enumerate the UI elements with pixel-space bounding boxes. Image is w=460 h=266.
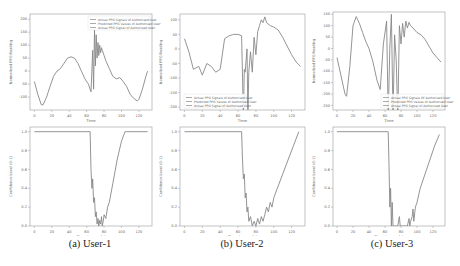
x-tick-label: 100 xyxy=(414,230,422,234)
x-axis-label: Time (seconds) xyxy=(76,234,106,236)
y-tick-label: -50 xyxy=(324,58,331,62)
y-tick-label: 0.6 xyxy=(171,168,177,172)
legend-label: Actual PPG Signal of Authorised User xyxy=(98,26,156,30)
x-tick-label: 120 xyxy=(135,114,143,118)
x-tick-label: 120 xyxy=(135,230,143,234)
caption-user-1: (a) User-1 xyxy=(30,238,150,249)
y-tick-label: 0.8 xyxy=(21,149,27,153)
y-tick-label: 50 xyxy=(325,35,330,39)
legend: Actual PPG Signals of Authorised UserPre… xyxy=(88,16,161,30)
y-tick-label: 0.4 xyxy=(324,186,330,190)
y-tick-label: -100 xyxy=(19,95,28,99)
plot-frame xyxy=(180,127,305,226)
x-tick-label: 120 xyxy=(288,114,296,118)
y-tick-label: 0.8 xyxy=(324,149,330,153)
y-tick-label: 0 xyxy=(25,69,28,73)
y-tick-label: 0.4 xyxy=(21,186,27,190)
y-tick-label: -200 xyxy=(322,92,331,96)
x-tick-label: 0 xyxy=(183,230,186,234)
y-tick-label: -100 xyxy=(322,69,331,73)
y-tick-label: 0.6 xyxy=(21,168,27,172)
caption-user-2: (b) User-2 xyxy=(182,238,302,249)
y-axis-label: Confidence Level (0-1) xyxy=(159,156,163,197)
chart-panel-5: 0204060801001201.00.80.60.40.20.0Time (s… xyxy=(159,127,305,236)
x-tick-label: 40 xyxy=(218,114,223,118)
data-line xyxy=(337,132,439,226)
x-axis-label: Time (seconds) xyxy=(374,234,404,236)
y-axis-label: Normalized PPG Reading xyxy=(159,40,163,84)
y-axis-label: Confidence Level (0-1) xyxy=(9,156,13,197)
x-tick-label: 100 xyxy=(270,230,278,234)
legend-label: Actual PPG Signal of Authorised User xyxy=(194,104,252,108)
x-tick-label: 20 xyxy=(200,114,205,118)
y-tick-label: 0.2 xyxy=(171,205,177,209)
x-tick-label: 100 xyxy=(270,114,278,118)
legend: Actual PPG Signals Of Authorised UserPre… xyxy=(381,94,454,108)
x-axis-label: Time xyxy=(237,118,248,123)
y-tick-label: 150 xyxy=(323,12,331,16)
y-tick-label: 0.0 xyxy=(21,224,27,228)
chart-panel-2: 020406080100120100500-50-100-150-200Time… xyxy=(159,14,305,123)
y-tick-label: 0.4 xyxy=(171,186,177,190)
y-tick-label: -200 xyxy=(169,105,178,109)
chart-panel-3: 020406080100120150100500-50-100-150-200-… xyxy=(312,12,454,123)
x-tick-label: 100 xyxy=(414,114,422,118)
y-tick-label: 0 xyxy=(328,47,331,51)
y-tick-label: 50 xyxy=(22,56,27,60)
y-tick-label: 0.0 xyxy=(324,224,330,228)
x-tick-label: 120 xyxy=(430,114,438,118)
chart-panel-1: 020406080100120200150100500-50-100TimeNo… xyxy=(9,14,161,123)
x-tick-label: 20 xyxy=(351,230,356,234)
y-tick-label: -150 xyxy=(169,91,178,95)
x-tick-label: 120 xyxy=(288,230,296,234)
y-axis-label: Normalized PPG Reading xyxy=(9,40,13,84)
y-tick-label: 100 xyxy=(170,18,178,22)
x-tick-label: 80 xyxy=(399,114,404,118)
x-axis-label: Time xyxy=(85,118,96,123)
y-tick-label: 100 xyxy=(20,43,28,47)
legend-label: Actual PPG Signal of Authorised User xyxy=(391,104,449,108)
y-axis-label: Normalized PPG Reading xyxy=(312,39,316,83)
y-tick-label: -50 xyxy=(21,82,28,86)
y-tick-label: 0.0 xyxy=(171,224,177,228)
x-tick-label: 0 xyxy=(183,114,186,118)
y-tick-label: -50 xyxy=(171,62,178,66)
x-tick-label: 0 xyxy=(336,230,339,234)
x-tick-label: 40 xyxy=(367,230,372,234)
y-axis-label: Confidence Level (0-1) xyxy=(312,156,316,197)
figure-canvas: 020406080100120200150100500-50-100TimeNo… xyxy=(0,0,460,236)
x-tick-label: 40 xyxy=(218,230,223,234)
y-tick-label: 1.0 xyxy=(324,130,330,134)
y-tick-label: 0.2 xyxy=(324,205,330,209)
x-tick-label: 40 xyxy=(67,114,72,118)
x-tick-label: 20 xyxy=(49,230,54,234)
x-tick-label: 120 xyxy=(430,230,438,234)
y-tick-label: 200 xyxy=(20,17,28,21)
x-tick-label: 20 xyxy=(351,114,356,118)
y-tick-label: 150 xyxy=(20,30,28,34)
x-tick-label: 100 xyxy=(118,114,126,118)
chart-panel-6: 0204060801001201.00.80.60.40.20.0Time (s… xyxy=(312,127,445,236)
x-tick-label: 0 xyxy=(33,230,36,234)
caption-user-3: (c) User-3 xyxy=(332,238,452,249)
y-tick-label: 0.8 xyxy=(171,149,177,153)
x-tick-label: 0 xyxy=(336,114,339,118)
y-tick-label: -100 xyxy=(169,76,178,80)
x-tick-label: 100 xyxy=(118,230,126,234)
data-line xyxy=(185,132,299,226)
data-line xyxy=(34,132,147,226)
y-tick-label: 1.0 xyxy=(171,130,177,134)
y-tick-label: 0.6 xyxy=(324,168,330,172)
x-tick-label: 80 xyxy=(254,114,259,118)
x-tick-label: 20 xyxy=(200,230,205,234)
x-tick-label: 40 xyxy=(367,114,372,118)
y-tick-label: -150 xyxy=(322,81,331,85)
x-tick-label: 40 xyxy=(67,230,72,234)
y-tick-label: -250 xyxy=(322,104,331,108)
y-tick-label: 50 xyxy=(172,33,177,37)
data-line xyxy=(34,30,147,105)
x-axis-label: Time (seconds) xyxy=(227,234,257,236)
y-tick-label: 0 xyxy=(175,47,178,51)
y-tick-label: 0.2 xyxy=(21,205,27,209)
x-tick-label: 20 xyxy=(49,114,54,118)
